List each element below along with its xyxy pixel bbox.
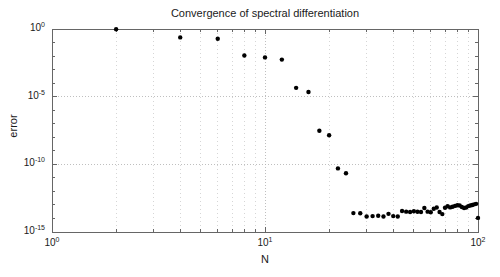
data-point (216, 37, 220, 41)
data-point (396, 214, 400, 218)
y-axis-label: error (7, 96, 19, 156)
data-point (381, 214, 385, 218)
data-point (391, 214, 395, 218)
data-point (114, 27, 118, 31)
data-point (263, 55, 267, 59)
data-point (400, 209, 404, 213)
data-point (364, 214, 368, 218)
data-point (306, 90, 310, 94)
data-point (474, 202, 478, 206)
data-point (280, 57, 284, 61)
data-point (178, 35, 182, 39)
data-point (419, 210, 423, 214)
data-point (336, 166, 340, 170)
data-point (327, 133, 331, 137)
y-tick-label: 10-10 (5, 157, 45, 168)
x-axis-label: N (52, 253, 478, 265)
y-tick-label: 10-15 (5, 225, 45, 236)
data-point (242, 53, 246, 57)
data-point (435, 205, 439, 209)
data-point (404, 209, 408, 213)
x-tick-label: 102 (458, 237, 498, 248)
data-point (408, 210, 412, 214)
data-point (476, 216, 480, 220)
y-tick-label: 100 (5, 22, 45, 33)
data-point (386, 212, 390, 216)
data-point (294, 86, 298, 90)
figure-canvas: Convergence of spectral differentiation … (0, 0, 500, 277)
plot-area (0, 0, 500, 277)
data-point (317, 129, 321, 133)
data-point (376, 214, 380, 218)
data-points-group (114, 27, 480, 220)
data-point (358, 211, 362, 215)
x-tick-label: 100 (32, 237, 72, 248)
x-tick-label: 101 (245, 237, 285, 248)
data-point (370, 214, 374, 218)
data-point (344, 171, 348, 175)
data-point (440, 212, 444, 216)
data-point (351, 211, 355, 215)
data-point (429, 210, 433, 214)
data-point (422, 206, 426, 210)
